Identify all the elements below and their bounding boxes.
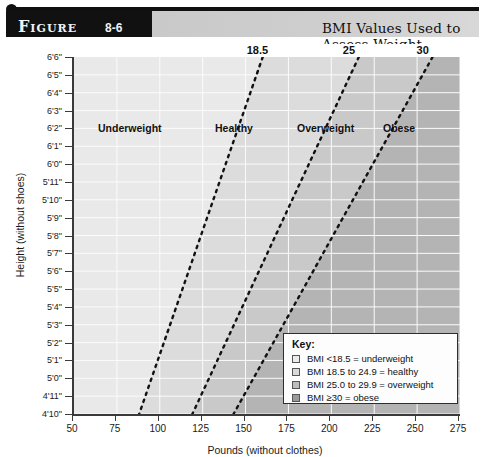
y-tick — [65, 343, 72, 344]
y-tick — [65, 253, 72, 254]
x-tick-label: 75 — [97, 423, 133, 434]
x-tick — [244, 414, 245, 421]
y-tick-label: 5'7" — [20, 248, 62, 258]
y-tick — [65, 128, 72, 129]
y-tick-label: 5'1" — [20, 355, 62, 365]
bmi-chart: UnderweightHealthyOverweightObese 18.525… — [0, 44, 481, 457]
y-tick-label: 5'6" — [20, 266, 62, 276]
y-tick-label: 5'4" — [20, 302, 62, 312]
y-tick-label: 5'10" — [20, 195, 62, 205]
key-item: BMI 25.0 to 29.9 = overweight — [292, 378, 457, 391]
key-swatch-icon — [292, 355, 300, 363]
zone-label-overweight: Overweight — [297, 122, 354, 134]
zone-label-underweight: Underweight — [98, 122, 162, 134]
x-tick-label: 225 — [354, 423, 390, 434]
threshold-label-18.5: 18.5 — [247, 44, 268, 56]
y-tick-label: 5'5" — [20, 284, 62, 294]
y-tick-label: 5'0" — [20, 373, 62, 383]
key-item: BMI <18.5 = underweight — [292, 352, 457, 365]
x-tick — [415, 414, 416, 421]
y-tick — [65, 378, 72, 379]
y-tick-label: 6'2" — [20, 123, 62, 133]
y-tick — [65, 236, 72, 237]
x-tick — [372, 414, 373, 421]
y-tick-label: 4'10" — [20, 409, 62, 419]
x-tick — [458, 414, 459, 421]
key-swatch-icon — [292, 381, 300, 389]
y-tick-label: 6'6" — [20, 52, 62, 62]
x-tick — [72, 414, 73, 421]
y-tick-label: 6'1" — [20, 141, 62, 151]
x-tick — [115, 414, 116, 421]
zone-label-obese: Obese — [383, 122, 415, 134]
key-swatch-icon — [292, 368, 300, 376]
x-tick-label: 200 — [311, 423, 347, 434]
y-tick-label: 6'3" — [20, 106, 62, 116]
key-swatch-icon — [292, 394, 300, 402]
y-tick-label: 6'5" — [20, 70, 62, 80]
figure-word: Figure — [18, 18, 77, 36]
y-tick — [65, 200, 72, 201]
key-item-label: BMI 25.0 to 29.9 = overweight — [307, 379, 433, 391]
x-tick-label: 100 — [140, 423, 176, 434]
x-tick — [329, 414, 330, 421]
y-tick-label: 6'0" — [20, 159, 62, 169]
y-tick — [65, 396, 72, 397]
y-tick — [65, 111, 72, 112]
key-title: Key: — [292, 338, 457, 351]
y-tick-label: 5'3" — [20, 320, 62, 330]
key-item: BMI ≥30 = obese — [292, 391, 457, 404]
key-item-label: BMI ≥30 = obese — [307, 392, 379, 404]
y-tick — [65, 289, 72, 290]
threshold-label-25: 25 — [343, 44, 355, 56]
key-item-label: BMI 18.5 to 24.9 = healthy — [307, 366, 418, 378]
y-tick — [65, 182, 72, 183]
y-tick — [65, 164, 72, 165]
figure-title-bar: BMI Values Used to Assess Weight — [152, 11, 479, 37]
key-item-label: BMI <18.5 = underweight — [307, 353, 413, 365]
y-tick — [65, 146, 72, 147]
x-tick-label: 150 — [226, 423, 262, 434]
figure-header: Figure 8-6 BMI Values Used to Assess Wei… — [0, 7, 481, 41]
figure-number: 8-6 — [105, 22, 122, 35]
x-tick — [201, 414, 202, 421]
y-tick-label: 6'4" — [20, 88, 62, 98]
y-tick — [65, 57, 72, 58]
x-tick-label: 50 — [54, 423, 90, 434]
y-tick — [65, 218, 72, 219]
x-tick — [158, 414, 159, 421]
figure-number-tab: Figure 8-6 — [6, 11, 152, 37]
y-tick — [65, 360, 72, 361]
key-items: BMI <18.5 = underweightBMI 18.5 to 24.9 … — [292, 352, 457, 404]
key-legend: Key: BMI <18.5 = underweightBMI 18.5 to … — [283, 333, 458, 404]
y-axis-title: Height (without shoes) — [14, 150, 26, 300]
y-tick — [65, 307, 72, 308]
zone-label-healthy: Healthy — [215, 122, 253, 134]
y-tick-label: 4'11" — [20, 391, 62, 401]
x-tick — [286, 414, 287, 421]
y-tick-label: 5'8" — [20, 231, 62, 241]
x-tick-label: 275 — [440, 423, 476, 434]
threshold-label-30: 30 — [417, 44, 429, 56]
y-tick-label: 5'9" — [20, 213, 62, 223]
x-tick-label: 125 — [183, 423, 219, 434]
key-item: BMI 18.5 to 24.9 = healthy — [292, 365, 457, 378]
threshold-curve-18.5 — [139, 57, 263, 414]
y-tick — [65, 325, 72, 326]
y-tick — [65, 75, 72, 76]
y-tick-label: 5'11" — [20, 177, 62, 187]
y-tick-label: 5'2" — [20, 338, 62, 348]
y-tick — [65, 271, 72, 272]
y-tick — [65, 414, 72, 415]
x-tick-label: 250 — [397, 423, 433, 434]
x-tick-label: 175 — [268, 423, 304, 434]
x-axis-title: Pounds (without clothes) — [72, 444, 458, 456]
y-tick — [65, 93, 72, 94]
